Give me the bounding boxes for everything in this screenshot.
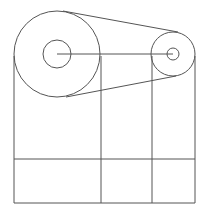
- pulley-belt-diagram: [0, 0, 204, 215]
- belt-top: [63, 11, 178, 32]
- belt-bottom: [66, 76, 176, 97]
